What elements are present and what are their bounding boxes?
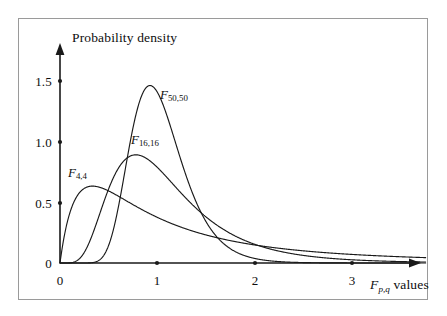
y-tick-label-0: 0 bbox=[19, 257, 52, 270]
density-curves bbox=[60, 86, 426, 263]
curve-annotation-f-16-16: F16,16 bbox=[131, 133, 159, 148]
x-tick-label-1: 1 bbox=[149, 274, 165, 287]
curve-annotation-f-50-50-subscript: 50,50 bbox=[168, 93, 188, 103]
plot-area bbox=[0, 0, 447, 316]
y-tick-label-1-0: 1.0 bbox=[19, 136, 52, 149]
curve-annotation-f-4-4-variable: F bbox=[68, 165, 76, 180]
y-tick-label-0-5: 0.5 bbox=[19, 197, 52, 210]
x-tick-label-0: 0 bbox=[52, 274, 68, 287]
curve-annotation-f-50-50: F50,50 bbox=[160, 88, 188, 103]
y-axis-title: Probability density bbox=[72, 31, 177, 45]
curve-annotation-f-50-50-variable: F bbox=[160, 87, 168, 102]
curve-annotation-f-16-16-subscript: 16,16 bbox=[139, 138, 159, 148]
curve-f-16-16 bbox=[60, 155, 426, 263]
x-axis-title: Fp,q values bbox=[370, 278, 429, 294]
x-axis-title-subscript: p,q bbox=[378, 284, 389, 294]
y-tick-label-1-5: 1.5 bbox=[19, 75, 52, 88]
y-axis-arrow-icon bbox=[56, 43, 65, 55]
x-tick-label-3: 3 bbox=[344, 274, 360, 287]
curve-annotation-f-4-4-subscript: 4,4 bbox=[76, 171, 87, 181]
x-tick-label-2: 2 bbox=[247, 274, 263, 287]
curve-annotation-f-16-16-variable: F bbox=[131, 132, 139, 147]
curve-annotation-f-4-4: F4,4 bbox=[68, 166, 87, 181]
x-axis-title-suffix: values bbox=[390, 277, 429, 292]
chart-screenshot: Probability density Fp,q values 0 1 2 3 … bbox=[0, 0, 447, 316]
